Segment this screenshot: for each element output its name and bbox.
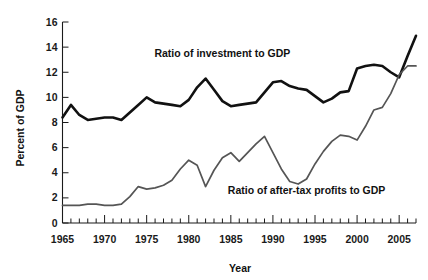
series-annotations: Ratio of investment to GDPRatio of after… <box>154 47 385 196</box>
y-tick-label: 16 <box>46 16 58 28</box>
x-tick-label: 2000 <box>345 233 369 245</box>
y-tick-label: 12 <box>46 66 58 78</box>
y-axis-ticks <box>63 22 69 223</box>
series-lines <box>63 36 417 206</box>
y-axis-tick-labels: 0246810121416 <box>46 16 58 229</box>
y-tick-label: 2 <box>52 191 58 203</box>
line-chart: 0246810121416 19651970197519801985199019… <box>0 0 428 280</box>
x-tick-label: 1975 <box>135 233 159 245</box>
x-tick-label: 1980 <box>177 233 201 245</box>
y-tick-label: 8 <box>52 116 58 128</box>
x-axis-ticks <box>63 215 417 223</box>
x-tick-label: 1965 <box>51 233 75 245</box>
series-label-0: Ratio of investment to GDP <box>154 47 290 59</box>
y-tick-label: 10 <box>46 91 58 103</box>
y-tick-label: 4 <box>52 166 58 178</box>
x-tick-label: 2005 <box>387 233 411 245</box>
x-tick-label: 1995 <box>303 233 327 245</box>
x-tick-label: 1985 <box>219 233 243 245</box>
x-axis-title: Year <box>229 262 251 274</box>
series-label-1: Ratio of after-tax profits to GDP <box>228 184 386 196</box>
x-tick-label: 1990 <box>261 233 285 245</box>
y-axis-title: Percent of GDP <box>14 89 26 166</box>
x-tick-label: 1970 <box>93 233 117 245</box>
y-tick-label: 0 <box>52 217 58 229</box>
chart-page: 0246810121416 19651970197519801985199019… <box>0 0 428 280</box>
x-axis-tick-labels: 196519701975198019851990199520002005 <box>51 233 411 245</box>
y-tick-label: 14 <box>46 41 58 53</box>
y-tick-label: 6 <box>52 141 58 153</box>
